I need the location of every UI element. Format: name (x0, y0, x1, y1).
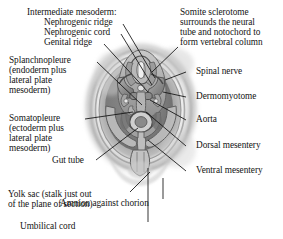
label-dermomyotome: Dermomyotome (196, 91, 256, 101)
label-gut-tube: Gut tube (52, 155, 84, 165)
label-somite-sclerotome-l1: Somite sclerotome (180, 7, 249, 17)
nephrogenic-cord-left (124, 99, 128, 103)
label-aorta: Aorta (196, 114, 217, 124)
label-splanchnopleure-l3: lateral plate (9, 75, 52, 85)
label-somatopleure-l4: mesoderm) (9, 143, 50, 153)
label-splanchnopleure: Splanchnopleure (9, 55, 71, 65)
label-nephrogenic-ridge: Nephrogenic ridge (44, 17, 113, 27)
label-intermediate-mesoderm-title: Intermediate mesoderm: (27, 7, 117, 17)
coelom-right (152, 112, 162, 130)
label-spinal-nerve: Spinal nerve (196, 66, 242, 76)
label-splanchnopleure-l2: (endoderm plus (9, 65, 66, 75)
label-somatopleure-l3: lateral plate (9, 133, 52, 143)
label-amnion-against-chorion: Amnion against chorion (60, 198, 149, 208)
figure-canvas: Intermediate mesoderm: Nephrogenic ridge… (0, 0, 283, 239)
label-splanchnopleure-l4: mesoderm) (9, 85, 50, 95)
label-somite-sclerotome-l3: tube and notochord to (180, 27, 260, 37)
label-dorsal-mesentery: Dorsal mesentery (196, 140, 261, 150)
nephrogenic-cord-right (154, 99, 158, 103)
label-somite-sclerotome-l2: surrounds the neural (180, 17, 255, 27)
label-genital-ridge: Genital ridge (44, 37, 92, 47)
label-somatopleure-l2: (ectoderm plus (9, 123, 64, 133)
label-somite-sclerotome-l4: form vertebral column (180, 37, 263, 47)
embryo-cross-section-illustration (78, 22, 206, 198)
label-umbilical-cord: Umbilical cord (20, 221, 75, 231)
notochord (138, 85, 145, 91)
label-ventral-mesentery: Ventral mesentery (196, 165, 263, 175)
yolk-sac (128, 161, 152, 179)
label-somatopleure: Somatopleure (9, 113, 60, 123)
label-nephrogenic-cord: Nephrogenic cord (44, 27, 110, 37)
gut-lumen (135, 117, 147, 128)
coelom-left (120, 112, 130, 130)
